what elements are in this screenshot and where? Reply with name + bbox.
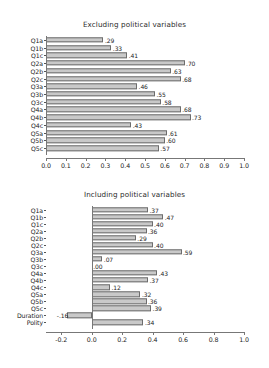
x-tick-mark [214, 332, 215, 335]
bar-value-label: .32 [142, 291, 151, 298]
bar [46, 76, 181, 81]
bar-row: Polity.34 [46, 319, 244, 326]
y-tick-mark [44, 238, 47, 239]
x-tick-label: 0.7 [180, 162, 190, 169]
bar-value-label: .43 [133, 121, 142, 128]
category-label: Polity [27, 319, 43, 326]
category-label: Q5c [31, 145, 43, 152]
bar [46, 53, 127, 58]
y-tick-mark [44, 322, 47, 323]
bar-row: Q5a.61 [46, 129, 244, 137]
bar [92, 221, 153, 226]
category-label: Q3a [31, 83, 43, 90]
bar-row: Q3c.00 [46, 262, 244, 269]
x-tick-label: 0.3 [101, 162, 111, 169]
category-label: Q2c [31, 75, 43, 82]
bar-row: Duration-.16 [46, 312, 244, 319]
category-label: Q2b [31, 234, 43, 241]
bar-value-label: .46 [139, 83, 148, 90]
bar-row: Q4c.12 [46, 284, 244, 291]
bar-value-label: .36 [148, 227, 157, 234]
y-tick-mark [44, 210, 47, 211]
bar [67, 313, 91, 318]
category-label: Q5a [31, 129, 43, 136]
bar-row: Q3b.07 [46, 255, 244, 262]
bar [46, 99, 161, 104]
bar [92, 277, 148, 282]
bar-row: Q3c.58 [46, 98, 244, 106]
y-tick-mark [44, 266, 47, 267]
chart-excluding-political-variables: Excluding political variables Q1a.29Q1b.… [0, 0, 269, 184]
bar-row: Q1b.33 [46, 44, 244, 52]
x-tick-label: -0.2 [55, 336, 67, 343]
bar [46, 91, 155, 96]
category-label: Q3a [31, 248, 43, 255]
x-tick-label: 0.0 [41, 162, 51, 169]
bar-value-label: .55 [156, 90, 165, 97]
category-label: Q4a [31, 270, 43, 277]
bar-value-label: .68 [182, 75, 191, 82]
y-tick-mark [44, 217, 47, 218]
bar-value-label: .60 [166, 137, 175, 144]
bar [92, 299, 147, 304]
bar-value-label: .37 [150, 277, 159, 284]
bar-value-label: .63 [172, 67, 181, 74]
bar [46, 122, 131, 127]
bar [46, 45, 111, 50]
bar [46, 138, 165, 143]
y-tick-mark [44, 301, 47, 302]
bar [92, 249, 182, 254]
x-tick-label: 0.5 [140, 162, 150, 169]
chart-including-political-variables: Including political variables Q1a.37Q1b.… [0, 184, 269, 368]
bar-rows-bottom: Q1a.37Q1b.47Q1c.40Q2a.36Q2b.29Q2c.40Q3a.… [46, 206, 244, 326]
category-label: Q2a [31, 60, 43, 67]
bar [46, 114, 191, 119]
bar-value-label: .07 [104, 255, 113, 262]
bar [46, 145, 159, 150]
x-tick-mark [66, 158, 67, 161]
x-tick-label: 0.6 [178, 336, 188, 343]
bar-value-label: -.16 [57, 312, 68, 319]
bar-row: Q4b.73 [46, 113, 244, 121]
category-label: Q5a [31, 291, 43, 298]
x-tick-mark [122, 332, 123, 335]
bar [92, 306, 151, 311]
category-label: Q4b [31, 114, 43, 121]
y-tick-mark [44, 259, 47, 260]
category-label: Duration [17, 312, 43, 319]
bar [92, 284, 110, 289]
bar-value-label: .37 [150, 206, 159, 213]
bar [92, 242, 153, 247]
category-label: Q4c [31, 284, 43, 291]
bar-value-label: .34 [145, 319, 154, 326]
bar-value-label: .70 [186, 60, 195, 67]
bar-rows-top: Q1a.29Q1b.33Q1c.41Q2a.70Q2b.63Q2c.68Q3a.… [46, 36, 244, 152]
bar [92, 292, 141, 297]
x-tick-mark [244, 332, 245, 335]
bar-row: Q2b.63 [46, 67, 244, 75]
category-label: Q3b [31, 255, 43, 262]
bar [92, 235, 136, 240]
y-tick-mark [44, 315, 47, 316]
x-tick-mark [244, 158, 245, 161]
category-label: Q4b [31, 277, 43, 284]
bar-row: Q3a.46 [46, 82, 244, 90]
category-label: Q2c [31, 241, 43, 248]
bar-value-label: .57 [160, 145, 169, 152]
x-tick-label: 0.2 [117, 336, 127, 343]
bar-value-label: .36 [148, 298, 157, 305]
category-label: Q2b [31, 67, 43, 74]
bar-row: Q2a.36 [46, 227, 244, 234]
bar [92, 207, 148, 212]
y-tick-mark [44, 224, 47, 225]
x-tick-mark [204, 158, 205, 161]
bar-value-label: .68 [182, 106, 191, 113]
category-label: Q5c [31, 305, 43, 312]
bar-row: Q2b.29 [46, 234, 244, 241]
y-tick-mark [44, 231, 47, 232]
x-tick-label: 1.0 [239, 162, 249, 169]
bar-value-label: .59 [183, 248, 192, 255]
bar-row: Q5a.32 [46, 291, 244, 298]
category-label: Q4c [31, 121, 43, 128]
bar-value-label: .40 [154, 220, 163, 227]
